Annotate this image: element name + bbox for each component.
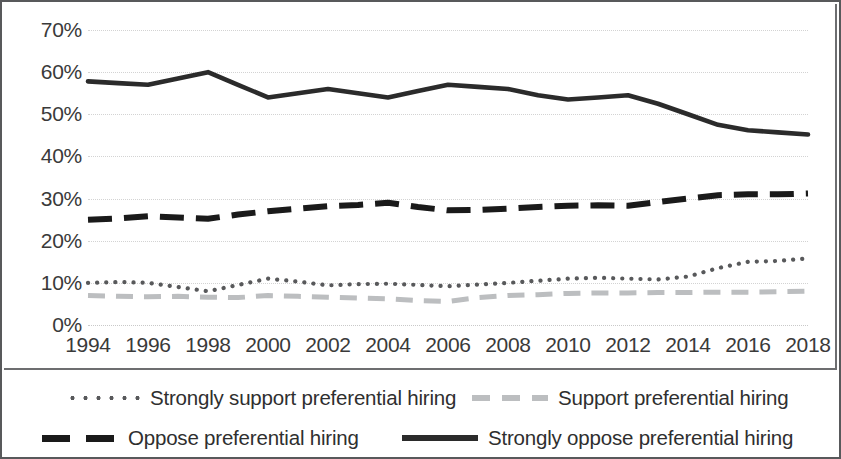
x-axis-tick-label: 2002 (305, 333, 351, 357)
legend-entry[interactable]: Strongly oppose preferential hiring (402, 426, 793, 450)
legend-label: Strongly oppose preferential hiring (488, 426, 793, 450)
y-axis-tick-label: 10% (12, 271, 82, 295)
legend-row-1: Strongly support preferential hiringSupp… (4, 378, 837, 418)
x-axis-tick-label: 1994 (65, 333, 111, 357)
solid-line-swatch (402, 431, 478, 445)
series-line (88, 194, 808, 220)
legend-label: Support preferential hiring (558, 386, 789, 410)
chart-legend: Strongly support preferential hiringSupp… (4, 374, 837, 455)
y-axis: 0%10%20%30%40%50%60%70% (10, 30, 82, 325)
y-axis-tick-label: 20% (12, 229, 82, 253)
dark-dashed-line-swatch (42, 431, 118, 445)
series-line (88, 291, 808, 301)
x-axis-tick-label: 2010 (545, 333, 591, 357)
legend-label: Strongly support preferential hiring (150, 386, 456, 410)
series-line (88, 258, 808, 291)
x-axis: 1994199619982000200220042006200820102012… (88, 333, 808, 363)
x-axis-tick-label: 2006 (425, 333, 471, 357)
y-axis-tick-label: 40% (12, 144, 82, 168)
series-line (88, 72, 808, 134)
legend-row-2: Oppose preferential hiringStrongly oppos… (4, 418, 837, 458)
x-axis-tick-label: 2012 (605, 333, 651, 357)
legend-label: Oppose preferential hiring (128, 426, 359, 450)
y-axis-tick-label: 60% (12, 60, 82, 84)
legend-entry[interactable]: Strongly support preferential hiring (64, 386, 456, 410)
y-axis-tick-label: 70% (12, 18, 82, 42)
x-axis-tick-label: 2008 (485, 333, 531, 357)
x-axis-tick-label: 2016 (725, 333, 771, 357)
x-axis-tick-label: 2000 (245, 333, 291, 357)
x-axis-baseline (88, 325, 808, 327)
light-dashed-line-swatch (472, 391, 548, 405)
plot-area (88, 30, 808, 325)
y-axis-tick-label: 30% (12, 187, 82, 211)
y-axis-tick-label: 50% (12, 102, 82, 126)
series-container (88, 30, 808, 325)
x-axis-tick-label: 2018 (785, 333, 831, 357)
x-axis-tick-label: 2004 (365, 333, 411, 357)
legend-entry[interactable]: Support preferential hiring (472, 386, 789, 410)
x-axis-tick-label: 1998 (185, 333, 231, 357)
chart-screenshot: 0%10%20%30%40%50%60%70% 1994199619982000… (0, 0, 841, 459)
x-axis-tick-label: 2014 (665, 333, 711, 357)
dotted-line-swatch (64, 391, 140, 405)
x-axis-tick-label: 1996 (125, 333, 171, 357)
legend-entry[interactable]: Oppose preferential hiring (42, 426, 359, 450)
